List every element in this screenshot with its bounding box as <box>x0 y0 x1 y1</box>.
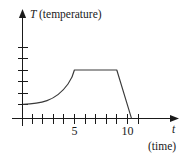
x-axis-symbol-label: t <box>172 123 176 135</box>
x-tick-label-10: 10 <box>121 124 133 138</box>
y-axis-name-label: (temperature) <box>39 8 102 21</box>
x-axis-name-label: (time) <box>148 140 176 153</box>
y-axis-arrowhead <box>19 9 26 18</box>
graph-canvas: T (temperature) t (time) 5 10 <box>0 0 194 157</box>
x-tick-label-5: 5 <box>71 124 77 138</box>
x-axis-arrowhead <box>170 115 179 122</box>
temperature-curve <box>23 70 132 118</box>
y-axis-symbol-label: T <box>30 8 38 20</box>
temperature-time-figure: T (temperature) t (time) 5 10 <box>0 0 194 157</box>
